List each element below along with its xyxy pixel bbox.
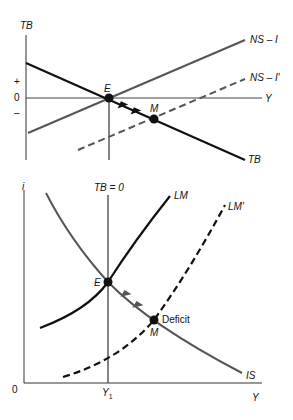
ns-i-prime-label: NS – I′ <box>250 72 281 83</box>
top-y-axis-label: TB <box>20 20 33 31</box>
tick-minus: – <box>14 107 20 118</box>
lm-label: LM <box>174 190 189 201</box>
y1-tick-label: Y1 <box>102 387 113 400</box>
point-m-top-label: M <box>150 103 159 114</box>
deficit-annotation: Deficit <box>162 314 190 325</box>
lm-prime-label: LM′ <box>228 201 245 212</box>
tb-zero-label: TB = 0 <box>94 182 124 193</box>
tb-label: TB <box>248 154 261 165</box>
ns-i-label: NS – I <box>250 34 278 45</box>
diagram-canvas: TB + 0 – Y NS – I NS – I′ TB E M i TB = … <box>0 0 293 420</box>
origin-label: 0 <box>12 384 18 395</box>
point-m-top <box>150 115 159 124</box>
point-e-top-label: E <box>104 83 111 94</box>
tick-zero: 0 <box>14 92 20 103</box>
is-label: IS <box>246 370 256 381</box>
is-curve <box>46 193 242 373</box>
tick-plus: + <box>14 76 20 87</box>
point-e-top <box>105 94 114 103</box>
point-m-bottom <box>150 316 159 325</box>
point-e-bottom <box>104 278 113 287</box>
bottom-y-axis-label: i <box>22 181 25 192</box>
ns-i-line <box>28 40 245 133</box>
bottom-x-axis-label: Y <box>252 392 260 403</box>
point-e-bottom-label: E <box>94 277 101 288</box>
top-x-axis-label: Y <box>265 93 273 104</box>
point-m-bottom-label: M <box>150 327 159 338</box>
